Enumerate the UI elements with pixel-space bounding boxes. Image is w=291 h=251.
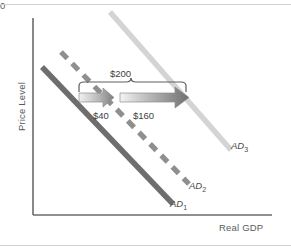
- curve-ad3: [110, 12, 231, 150]
- curve-label-ad1: AD1: [170, 198, 187, 211]
- curve-label-ad3: AD3: [231, 140, 248, 153]
- curve-label-ad2: AD2: [189, 180, 206, 193]
- arrow-160: [120, 87, 189, 108]
- arrow-160-label: $160: [133, 110, 154, 121]
- brace-value-label: $200: [110, 68, 131, 79]
- curve-label-ad2-text: AD: [189, 180, 202, 191]
- curve-label-ad1-text: AD: [170, 198, 183, 209]
- arrow-40-label: $40: [93, 110, 109, 121]
- plot-canvas: [0, 0, 291, 251]
- curve-label-ad3-sub: 3: [244, 146, 248, 153]
- curve-label-ad1-sub: 1: [183, 204, 187, 211]
- y-axis-label: Price Level: [16, 72, 27, 142]
- curve-label-ad3-text: AD: [231, 140, 244, 151]
- x-axis-label: Real GDP: [219, 222, 263, 233]
- aggregate-demand-chart: Price Level Real GDP 0 $200 $40 $160 AD1…: [0, 0, 291, 251]
- curve-ad1: [42, 67, 173, 204]
- curve-label-ad2-sub: 2: [202, 186, 206, 193]
